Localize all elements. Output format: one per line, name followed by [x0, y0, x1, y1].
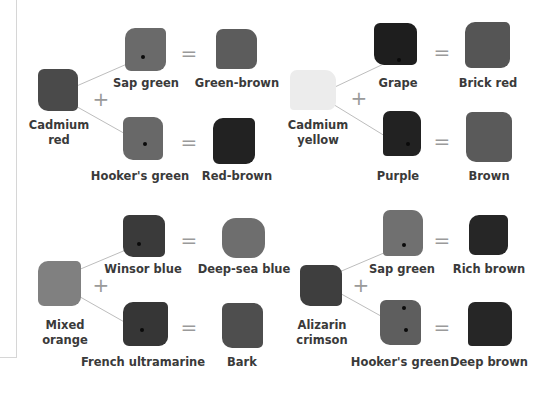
mix-point [397, 58, 401, 62]
color-mixing-chart: Cadmiumred + Sap green = Green-brown Hoo… [0, 0, 545, 393]
result-label: Red-brown [202, 169, 272, 184]
swatch-cadmium-yellow [290, 70, 336, 110]
mix-point [402, 243, 406, 247]
mix-label: Hooker's green [351, 355, 449, 370]
swatch-alizarin-crimson [300, 265, 342, 306]
base-label: Alizarincrimson [296, 318, 347, 348]
swatch-mixed-orange [38, 261, 81, 306]
swatch-brick-red [465, 22, 510, 68]
swatch-deep-sea-blue [222, 218, 265, 258]
result-label: Deep brown [450, 355, 528, 370]
mix-point [406, 142, 410, 146]
page-border [0, 0, 17, 358]
equals-sign: = [434, 42, 451, 62]
equals-sign: = [181, 230, 198, 250]
mix-point [402, 306, 406, 310]
result-label: Brick red [459, 76, 518, 91]
swatch-sap-green [383, 210, 423, 256]
result-label: Green-brown [195, 76, 279, 91]
mix-label: Sap green [369, 262, 435, 277]
plus-sign: + [353, 275, 370, 295]
swatch-rich-brown [469, 215, 508, 255]
swatch-bark [222, 303, 263, 348]
swatch-french-ultramarine [123, 302, 168, 346]
mix-point [137, 242, 141, 246]
mix-point [140, 328, 144, 332]
swatch-grape [374, 23, 417, 65]
swatch-winsor-blue [123, 215, 165, 257]
mix-label: Grape [379, 76, 418, 91]
mix-label: Hooker's green [91, 169, 189, 184]
result-label: Deep-sea blue [198, 262, 291, 277]
swatch-hookers-green [380, 300, 421, 345]
result-label: Brown [468, 169, 509, 184]
swatch-cadmium-red [38, 69, 78, 111]
base-label: Mixedorange [42, 318, 88, 348]
equals-sign: = [181, 132, 198, 152]
base-label: Cadmiumyellow [288, 118, 349, 148]
mix-point [404, 328, 408, 332]
result-label: Bark [227, 355, 257, 370]
mix-label: Sap green [113, 76, 179, 91]
equals-sign: = [181, 43, 198, 63]
base-label: Cadmiumred [29, 118, 90, 148]
mix-label: Purple [377, 169, 419, 184]
swatch-deep-brown [468, 302, 512, 346]
swatch-red-brown [213, 118, 255, 164]
equals-sign: = [181, 317, 198, 337]
mix-label: Winsor blue [104, 262, 181, 277]
equals-sign: = [434, 131, 451, 151]
swatch-hookers-green [123, 117, 163, 160]
mix-point [141, 55, 145, 59]
swatch-sap-green [125, 28, 166, 71]
mix-point [143, 142, 147, 146]
plus-sign: + [93, 275, 110, 295]
swatch-purple [383, 111, 421, 156]
plus-sign: + [351, 88, 368, 108]
result-label: Rich brown [453, 262, 525, 277]
swatch-green-brown [216, 29, 257, 69]
equals-sign: = [434, 317, 451, 337]
equals-sign: = [434, 230, 451, 250]
plus-sign: + [93, 89, 110, 109]
mix-label: French ultramarine [81, 355, 205, 370]
swatch-brown [466, 112, 512, 162]
